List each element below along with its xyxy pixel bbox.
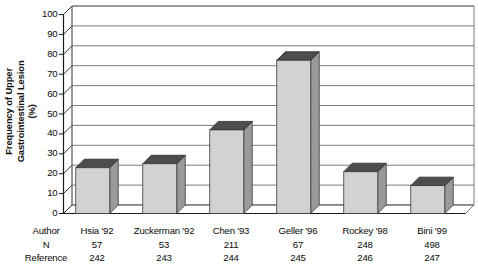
x-label-author-6: Bini '99 <box>399 225 466 236</box>
x-axis-row-reference: Reference 242243244245246247 <box>0 251 478 265</box>
x-axis-label-table: Author Hsia '92Zuckerman '92Chen '93Gell… <box>0 224 478 265</box>
x-label-reference-5: 246 <box>332 252 399 263</box>
bar-4 <box>277 52 320 214</box>
bar-6 <box>411 177 454 213</box>
bar-1 <box>76 159 119 213</box>
x-label-n-4: 67 <box>265 239 332 250</box>
x-label-n-5: 248 <box>332 239 399 250</box>
x-label-reference-6: 247 <box>399 252 466 263</box>
x-label-author-3: Chen '93 <box>198 225 265 236</box>
bar-2 <box>143 155 186 213</box>
x-label-n-3: 211 <box>198 239 265 250</box>
x-label-reference-4: 245 <box>265 252 332 263</box>
x-label-author-1: Hsia '92 <box>64 225 131 236</box>
x-label-author-5: Rockey '98 <box>332 225 399 236</box>
bar-3 <box>210 121 253 213</box>
x-label-author-4: Geller '96 <box>265 225 332 236</box>
x-label-n-1: 57 <box>64 239 131 250</box>
bar-chart: Frequency of Upper Gastrointestinal Lesi… <box>0 0 478 276</box>
x-label-n-6: 498 <box>399 239 466 250</box>
x-label-reference-2: 243 <box>131 252 198 263</box>
x-label-author-2: Zuckerman '92 <box>131 225 198 236</box>
x-label-reference-1: 242 <box>64 252 131 263</box>
x-axis-row-n: N 575321167248498 <box>0 238 478 252</box>
x-label-n-2: 53 <box>131 239 198 250</box>
bar-5 <box>344 163 387 213</box>
x-label-reference-3: 244 <box>198 252 265 263</box>
x-axis-row-author: Author Hsia '92Zuckerman '92Chen '93Gell… <box>0 224 478 238</box>
